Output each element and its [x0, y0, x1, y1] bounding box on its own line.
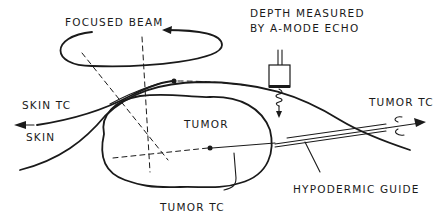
- tumor-outline: [102, 95, 271, 188]
- focused-beam-lines: [82, 37, 168, 172]
- skin-tc-junction: [172, 79, 177, 84]
- hypodermic-guide-leader: [305, 142, 320, 172]
- hyperthermia-schematic: FOCUSED BEAM DEPTH MEASURED BY A-MODE EC…: [0, 0, 439, 222]
- beam-scan-ellipse: [61, 26, 223, 66]
- hypodermic-guide-label: HYPODERMIC GUIDE: [293, 183, 420, 195]
- tumor-label: TUMOR: [183, 118, 229, 130]
- skin-tc-label: SKIN TC: [22, 99, 71, 111]
- tumor-tc-arrowhead-icon: [414, 118, 426, 127]
- focused-beam-label: FOCUSED BEAM: [65, 16, 164, 28]
- tumor-tc-bottom-label: TUMOR TC: [159, 201, 225, 213]
- a-mode-transducer: [269, 50, 290, 118]
- tumor-tc-leader: [224, 153, 236, 190]
- skin-label: SKIN: [26, 131, 55, 143]
- depth-measured-label-line1: DEPTH MEASURED: [250, 7, 365, 19]
- tumor-tc-right-label: TUMOR TC: [368, 96, 434, 108]
- tumor-tc-lead: [386, 117, 426, 135]
- depth-measured-label-line2: BY A-MODE ECHO: [250, 22, 359, 34]
- echo-arrowhead-icon: [276, 111, 282, 118]
- tumor-tc-dashed-path: [113, 148, 208, 158]
